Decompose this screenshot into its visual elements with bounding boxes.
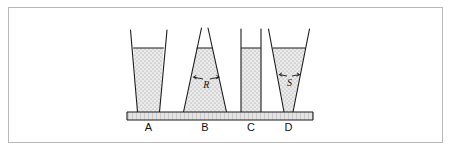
vessel-d-force-label: S — [287, 77, 292, 88]
vessel-a-label: A — [145, 121, 153, 133]
vessel-b: R — [180, 28, 230, 116]
vessel-d-label: D — [285, 121, 293, 133]
vessel-b-label: B — [201, 121, 208, 133]
figure-root: A R — [0, 0, 452, 152]
vessel-d: S — [268, 29, 312, 116]
common-base-plate — [127, 112, 313, 120]
vessel-c-label: C — [247, 121, 255, 133]
vessel-b-force-label: R — [202, 79, 209, 90]
vessel-c-liquid — [238, 46, 266, 116]
vessels-diagram: A R — [0, 0, 452, 152]
